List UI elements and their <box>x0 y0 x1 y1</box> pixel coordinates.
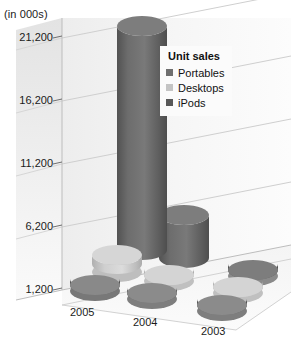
y-axis-unit-label: (in 000s) <box>4 8 48 20</box>
legend-item-portables[interactable]: Portables <box>166 65 224 80</box>
bar-2004-portables <box>127 283 177 309</box>
legend-item-ipods[interactable]: iPods <box>166 95 224 110</box>
legend-swatch-icon <box>166 84 173 91</box>
x-label-2003: 2003 <box>201 325 225 337</box>
y-tick-label: 1,200 <box>25 283 53 295</box>
y-tick-label: 21,200 <box>19 31 53 43</box>
legend-item-desktops[interactable]: Desktops <box>166 80 224 95</box>
legend-item-label: Portables <box>178 67 224 79</box>
legend: Unit sales Portables Desktops iPods <box>160 46 232 116</box>
chart-3d-cylinder: (in 000s) 21,200 16,200 11,200 6,200 1,2… <box>0 0 301 341</box>
x-label-2004: 2004 <box>133 316 157 328</box>
x-label-2005: 2005 <box>70 306 94 318</box>
y-tick-label: 6,200 <box>25 220 53 232</box>
bar-2005-portables <box>70 275 120 301</box>
legend-title: Unit sales <box>168 50 224 62</box>
bar-2003-portables <box>197 295 247 321</box>
legend-item-label: Desktops <box>178 82 224 94</box>
y-tick-label: 11,200 <box>20 157 53 169</box>
legend-item-label: iPods <box>178 97 206 109</box>
legend-swatch-icon <box>166 69 173 76</box>
y-tick-label: 16,200 <box>19 94 53 106</box>
legend-swatch-icon <box>166 99 173 106</box>
